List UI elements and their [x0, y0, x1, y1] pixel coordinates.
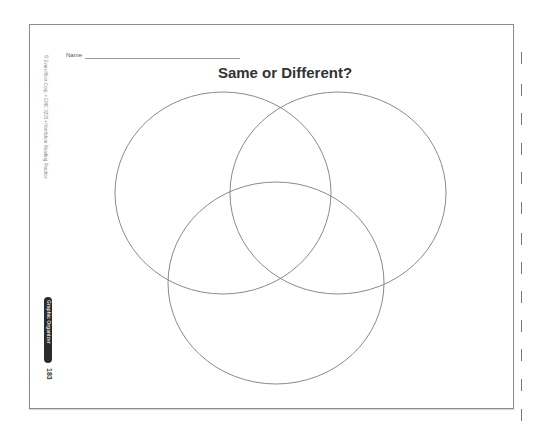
- cut-mark: [521, 320, 522, 332]
- venn-circle-left[interactable]: [115, 92, 331, 294]
- cut-marks: [520, 0, 524, 437]
- cut-mark: [521, 84, 522, 96]
- venn-circle-bottom[interactable]: [168, 182, 384, 384]
- cut-mark: [521, 409, 522, 421]
- cut-mark: [521, 291, 522, 303]
- cut-mark: [521, 202, 522, 214]
- cut-mark: [521, 233, 522, 245]
- cut-mark: [521, 113, 522, 125]
- cut-mark: [521, 172, 522, 184]
- cut-mark: [521, 143, 522, 155]
- cut-mark: [521, 349, 522, 361]
- cut-mark: [521, 379, 522, 391]
- cut-mark: [521, 262, 522, 274]
- venn-diagram: [0, 0, 544, 437]
- venn-circle-right[interactable]: [230, 92, 446, 294]
- cut-mark: [521, 52, 522, 64]
